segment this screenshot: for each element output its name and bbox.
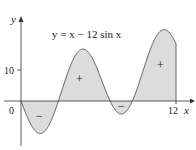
- y-axis-label: y: [10, 13, 16, 25]
- y-axis-arrow-icon: [19, 16, 24, 22]
- equation-label: y = x − 12 sin x: [52, 28, 122, 40]
- y-tick-10-label: 10: [4, 65, 14, 76]
- plot-area: y x 0 10 12 y = x − 12 sin x + + − −: [0, 0, 196, 150]
- minus-annotation-2: −: [118, 99, 125, 113]
- plus-annotation-1: +: [76, 72, 83, 86]
- x-axis-arrow-icon: [190, 99, 195, 104]
- origin-label: 0: [9, 105, 14, 116]
- x-tick-12-label: 12: [168, 105, 178, 116]
- minus-annotation-1: −: [36, 109, 43, 123]
- plus-annotation-2: +: [157, 58, 164, 72]
- area-fill: [21, 30, 176, 134]
- x-axis-label: x: [183, 104, 189, 116]
- chart: y x 0 10 12 y = x − 12 sin x + + − −: [0, 0, 196, 150]
